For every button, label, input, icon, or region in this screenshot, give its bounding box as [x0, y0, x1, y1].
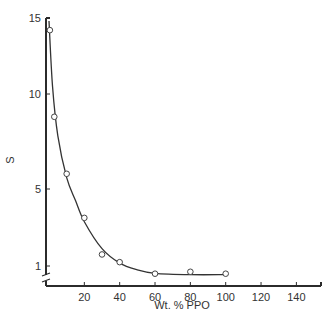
- data-point-marker: [152, 271, 158, 277]
- data-point-marker: [64, 171, 70, 177]
- data-points: [47, 27, 228, 276]
- y-tick-label: 5: [35, 183, 41, 195]
- fitted-curve: [49, 21, 226, 275]
- data-point-marker: [52, 114, 58, 120]
- x-tick-label: 140: [287, 291, 305, 303]
- x-axis-line: [46, 282, 321, 286]
- x-tick-label: 20: [78, 291, 90, 303]
- x-tick-label: 100: [217, 291, 235, 303]
- fitted-curve-line: [49, 21, 226, 275]
- data-point-marker: [82, 215, 88, 221]
- y-tick-label: 10: [29, 88, 41, 100]
- y-tick-label: 15: [29, 12, 41, 24]
- data-point-marker: [99, 252, 105, 258]
- x-axis-label: Wt. % PPO: [154, 299, 210, 311]
- axis-break-icon: [42, 273, 50, 282]
- chart-canvas: 15101520406080100120140 S Wt. % PPO: [0, 0, 336, 327]
- data-point-marker: [117, 259, 123, 265]
- y-axis-label: S: [4, 156, 16, 163]
- axes: 15101520406080100120140: [29, 12, 321, 303]
- y-tick-label: 1: [35, 260, 41, 272]
- data-point-marker: [188, 269, 194, 275]
- data-point-marker: [47, 27, 53, 33]
- data-point-marker: [223, 271, 229, 277]
- x-tick-label: 40: [114, 291, 126, 303]
- y-axis-line: [46, 18, 50, 286]
- x-tick-label: 120: [252, 291, 270, 303]
